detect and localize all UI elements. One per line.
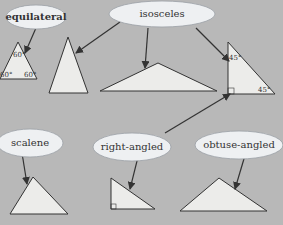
right-angled-triangle bbox=[111, 178, 155, 209]
cloud-isosceles: isosceles bbox=[109, 1, 215, 27]
right-isosceles-triangle: 45° 45° bbox=[228, 42, 275, 94]
angle-label: 60° bbox=[13, 51, 25, 59]
cloud-scalene: scalene bbox=[0, 129, 63, 157]
label-scalene: scalene bbox=[11, 137, 49, 148]
angle-label: 45° bbox=[258, 86, 270, 94]
angle-label: 60° bbox=[24, 71, 36, 79]
cloud-equilateral: equilateral bbox=[5, 5, 66, 29]
cloud-obtuse-angled: obtuse-angled bbox=[195, 131, 283, 159]
label-right-angled: right-angled bbox=[101, 141, 164, 152]
cloud-right-angled: right-angled bbox=[93, 133, 171, 161]
label-obtuse-angled: obtuse-angled bbox=[203, 139, 275, 150]
label-equilateral: equilateral bbox=[5, 11, 66, 22]
angle-label: 60° bbox=[0, 71, 12, 79]
equilateral-triangle: 60° 60° 60° bbox=[0, 42, 37, 79]
isosceles-tall-triangle bbox=[49, 37, 88, 93]
angle-label: 45° bbox=[229, 54, 241, 62]
triangle-types-diagram: 60° 60° 60° 45° 45° equilateral isoscel bbox=[0, 0, 283, 225]
isosceles-flat-triangle bbox=[100, 63, 217, 91]
scalene-triangle bbox=[10, 177, 68, 214]
label-isosceles: isosceles bbox=[139, 8, 184, 19]
arrows bbox=[22, 22, 246, 189]
obtuse-angled-triangle bbox=[180, 178, 267, 211]
